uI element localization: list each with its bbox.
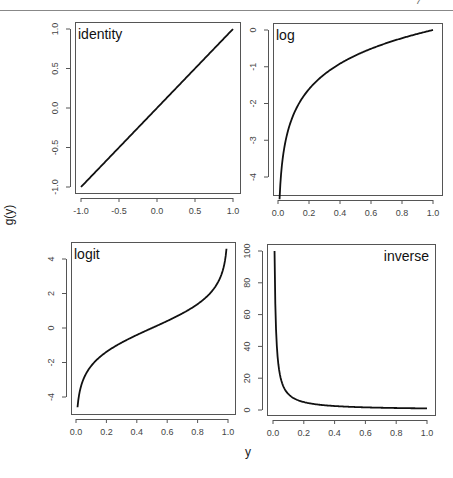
x-axis: -1.0-0.50.00.51.0 — [73, 198, 239, 216]
y-tick-label: 4 — [46, 256, 56, 261]
y-axis: -4-2024 — [46, 256, 67, 401]
y-tick-label: -3 — [248, 136, 258, 144]
y-axis: -1.0-0.50.00.51.0 — [50, 23, 71, 195]
x-axis-label: y — [245, 445, 251, 459]
y-tick-label: 1.0 — [50, 23, 60, 36]
x-tick-label: 0.0 — [151, 206, 164, 216]
panel-inverse: 0.00.20.40.60.81.0020406080100inverse — [242, 243, 436, 438]
x-axis: 0.00.20.40.60.81.0 — [267, 420, 434, 438]
x-tick-label: 1.0 — [227, 206, 240, 216]
x-tick-label: 0.6 — [359, 428, 372, 438]
x-axis: 0.00.20.40.60.81.0 — [272, 200, 440, 218]
function-curve — [275, 251, 427, 408]
y-tick-label: 0 — [46, 325, 56, 330]
x-tick-label: 1.0 — [421, 428, 434, 438]
x-tick-label: 0.4 — [131, 427, 144, 437]
y-tick-label: 0 — [248, 27, 258, 32]
x-tick-label: 0.6 — [161, 427, 174, 437]
x-tick-label: 1.0 — [427, 208, 440, 218]
function-curve — [280, 30, 433, 199]
x-tick-label: 0.8 — [396, 208, 409, 218]
x-tick-label: -0.5 — [111, 206, 127, 216]
y-tick-label: -1.0 — [50, 179, 60, 195]
y-tick-label: 100 — [242, 243, 252, 258]
plot-frame — [72, 243, 236, 415]
panel-title: identity — [78, 26, 122, 42]
y-tick-label: 60 — [242, 310, 252, 320]
x-tick-label: 0.2 — [298, 428, 311, 438]
y-tick-label: -0.5 — [50, 140, 60, 156]
function-curve — [78, 249, 227, 408]
panel-identity: -1.0-0.50.00.51.0-1.0-0.50.00.51.0identi… — [50, 23, 241, 217]
x-tick-label: 0.8 — [390, 428, 403, 438]
y-tick-label: -4 — [46, 393, 56, 401]
plot-frame — [268, 245, 436, 416]
y-tick-label: 0.5 — [50, 62, 60, 75]
panel-title: inverse — [384, 248, 429, 264]
x-axis: 0.00.20.40.60.81.0 — [70, 419, 235, 437]
panel-logit: 0.00.20.40.60.81.0-4-2024logit — [46, 243, 236, 438]
x-tick-label: -1.0 — [73, 206, 89, 216]
x-tick-label: 0.0 — [267, 428, 280, 438]
x-tick-label: 0.4 — [328, 428, 341, 438]
y-tick-label: -2 — [46, 358, 56, 366]
y-tick-label: -2 — [248, 99, 258, 107]
x-tick-label: 0.0 — [272, 208, 285, 218]
y-axis: 020406080100 — [242, 243, 263, 412]
panel-log: 0.00.20.40.60.81.0-4-3-2-10log — [248, 24, 443, 219]
y-axis-label: g(y) — [2, 205, 16, 226]
x-tick-label: 0.6 — [365, 208, 378, 218]
y-tick-label: 0 — [242, 407, 252, 412]
y-tick-label: 20 — [242, 373, 252, 383]
y-tick-label: -1 — [248, 63, 258, 71]
y-tick-label: -4 — [248, 173, 258, 181]
x-tick-label: 0.5 — [189, 206, 202, 216]
function-curve — [81, 29, 233, 187]
x-tick-label: 0.0 — [70, 427, 83, 437]
panel-title: logit — [74, 246, 100, 262]
figure: 7 -1.0-0.50.00.51.0-1.0-0.50.00.51.0iden… — [0, 0, 453, 478]
y-tick-label: 80 — [242, 278, 252, 288]
y-axis: -4-3-2-10 — [248, 27, 269, 181]
panel-title: log — [276, 27, 295, 43]
x-tick-label: 0.4 — [334, 208, 347, 218]
y-tick-label: 40 — [242, 341, 252, 351]
x-tick-label: 0.8 — [191, 427, 204, 437]
x-tick-label: 0.2 — [100, 427, 113, 437]
y-tick-label: 0.0 — [50, 102, 60, 115]
plot-frame — [274, 24, 443, 196]
y-tick-label: 2 — [46, 291, 56, 296]
x-tick-label: 1.0 — [222, 427, 235, 437]
x-tick-label: 0.2 — [303, 208, 316, 218]
page-number-fragment: 7 — [416, 0, 422, 6]
